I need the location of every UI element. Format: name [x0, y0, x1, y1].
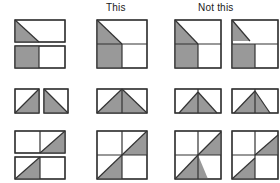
- rect-upper-right-diagonal-shaded: [15, 131, 65, 153]
- row-2-bad-group: [174, 88, 280, 116]
- row-3-source-group: [14, 130, 68, 180]
- rect-diagonal-lower-left-shaded: [15, 20, 65, 42]
- row-1-bad-group: [174, 19, 280, 71]
- rect-peak-triangle-misaligned-1: [175, 89, 221, 113]
- rect-peak-triangle-correct: [97, 89, 147, 113]
- square-triangle-lower-right-shaded: [15, 89, 39, 113]
- square-diagonal-misaligned-2: [232, 20, 278, 68]
- square-full-diagonal-correct: [97, 131, 147, 179]
- square-diagonal-misaligned-1: [175, 20, 221, 68]
- rect-lower-left-diagonal-shaded: [15, 157, 65, 179]
- rect-left-half-shaded: [15, 46, 65, 68]
- row-2-good-group: [96, 88, 150, 116]
- row-3-bad-group: [174, 130, 280, 182]
- square-full-diagonal-misaligned-2: [232, 131, 278, 179]
- column-header-this: This: [106, 2, 126, 13]
- row-3-good-group: [96, 130, 150, 182]
- row-1-good-group: [96, 19, 150, 71]
- column-header-not-this: Not this: [198, 2, 234, 13]
- square-diagonal-continuous-correct: [97, 20, 147, 68]
- square-triangle-lower-left-shaded: [44, 89, 68, 113]
- row-1-source-group: [14, 19, 68, 69]
- square-full-diagonal-misaligned-1: [175, 131, 221, 179]
- row-2-source-group: [14, 88, 70, 116]
- diagram-canvas: This Not this: [0, 0, 280, 183]
- rect-peak-triangle-misaligned-2: [232, 89, 278, 113]
